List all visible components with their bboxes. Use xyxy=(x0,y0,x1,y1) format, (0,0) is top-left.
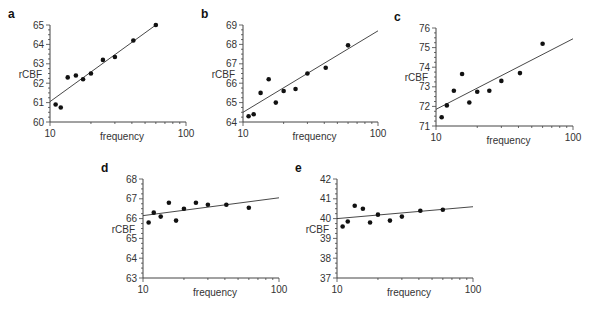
y-tick-label: 37 xyxy=(320,273,332,284)
data-point xyxy=(361,206,366,211)
panel-letter: d xyxy=(101,161,108,175)
y-tick-label: 66 xyxy=(126,213,138,224)
y-tick-label: 65 xyxy=(126,233,138,244)
data-point xyxy=(53,102,58,107)
x-axis-label: frequency xyxy=(193,287,237,298)
data-point xyxy=(194,200,199,205)
regression-line xyxy=(337,207,473,219)
panel-letter: a xyxy=(8,7,15,21)
y-tick-label: 64 xyxy=(126,253,138,264)
y-tick-label: 68 xyxy=(126,174,138,185)
data-point xyxy=(388,218,393,223)
data-point xyxy=(266,77,271,82)
x-tick-label: 10 xyxy=(44,128,56,139)
y-tick-label: 64 xyxy=(226,117,238,128)
y-tick-label: 76 xyxy=(419,23,431,34)
x-axis-label: frequency xyxy=(293,131,337,142)
x-axis-label: frequency xyxy=(387,287,431,298)
data-point xyxy=(293,87,298,92)
x-tick-label: 100 xyxy=(565,132,582,143)
data-point xyxy=(281,89,286,94)
data-point xyxy=(368,220,373,225)
data-point xyxy=(400,214,405,219)
data-point xyxy=(467,100,472,105)
data-point xyxy=(101,58,106,63)
data-point xyxy=(131,38,136,43)
y-tick-label: 41 xyxy=(320,193,332,204)
panel-b: b64656667686910100frequencyrCBF xyxy=(201,7,387,142)
y-tick-label: 42 xyxy=(320,174,332,185)
x-tick-label: 10 xyxy=(237,128,249,139)
y-tick-label: 75 xyxy=(419,42,431,53)
data-point xyxy=(323,65,328,70)
data-point xyxy=(439,115,444,120)
y-tick-label: 39 xyxy=(320,233,332,244)
data-point xyxy=(441,207,446,212)
data-point xyxy=(418,208,423,213)
panel-a: a60616263646510100frequencyrCBF xyxy=(8,7,195,142)
data-point xyxy=(518,71,523,76)
data-point xyxy=(167,200,172,205)
data-point xyxy=(247,205,252,210)
y-axis-label: rCBF xyxy=(212,69,235,80)
y-axis-label: rCBF xyxy=(405,72,428,83)
y-tick-label: 65 xyxy=(33,20,45,31)
y-tick-label: 60 xyxy=(33,117,45,128)
data-point xyxy=(74,73,79,78)
regression-line xyxy=(243,31,378,112)
data-point xyxy=(246,114,251,119)
data-point xyxy=(452,88,457,93)
data-point xyxy=(487,88,492,93)
panel-c: c71727374757610100frequencyrCBF xyxy=(394,10,582,146)
data-point xyxy=(499,79,504,84)
x-axis-label: frequency xyxy=(487,135,531,146)
data-point xyxy=(206,202,211,207)
data-point xyxy=(182,206,187,211)
regression-line xyxy=(143,198,279,216)
y-tick-label: 40 xyxy=(320,213,332,224)
data-point xyxy=(460,72,465,77)
panel-letter: b xyxy=(201,7,208,21)
data-point xyxy=(345,219,350,224)
data-point xyxy=(89,71,94,76)
x-tick-label: 10 xyxy=(137,284,149,295)
x-tick-label: 100 xyxy=(178,128,195,139)
data-point xyxy=(113,55,118,60)
y-tick-label: 65 xyxy=(226,97,238,108)
x-tick-label: 10 xyxy=(430,132,442,143)
y-tick-label: 67 xyxy=(126,193,138,204)
data-point xyxy=(158,214,163,219)
data-point xyxy=(376,212,381,217)
x-tick-label: 100 xyxy=(271,284,288,295)
data-point xyxy=(258,91,263,96)
data-point xyxy=(81,77,86,82)
y-tick-label: 64 xyxy=(33,39,45,50)
data-point xyxy=(174,218,179,223)
y-tick-label: 68 xyxy=(226,39,238,50)
data-point xyxy=(305,71,310,76)
data-point xyxy=(151,210,156,215)
data-point xyxy=(146,220,151,225)
y-tick-label: 38 xyxy=(320,253,332,264)
data-point xyxy=(475,89,480,94)
y-tick-label: 71 xyxy=(419,121,431,132)
data-point xyxy=(540,41,545,46)
data-point xyxy=(352,203,357,208)
data-point xyxy=(445,103,450,108)
x-tick-label: 10 xyxy=(331,284,343,295)
data-point xyxy=(346,43,351,48)
regression-line xyxy=(436,39,573,110)
data-point xyxy=(58,105,63,110)
y-tick-label: 63 xyxy=(126,273,138,284)
x-tick-label: 100 xyxy=(370,128,387,139)
panel-e: e37383940414210100frequencyrCBF xyxy=(295,161,482,298)
y-axis-label: rCBF xyxy=(306,224,329,235)
y-axis-label: rCBF xyxy=(112,224,135,235)
data-point xyxy=(65,75,70,80)
data-point xyxy=(340,224,345,229)
panel-letter: e xyxy=(295,161,302,175)
data-point xyxy=(154,23,159,28)
panel-letter: c xyxy=(394,10,401,24)
data-point xyxy=(274,100,279,105)
y-tick-label: 61 xyxy=(33,97,45,108)
